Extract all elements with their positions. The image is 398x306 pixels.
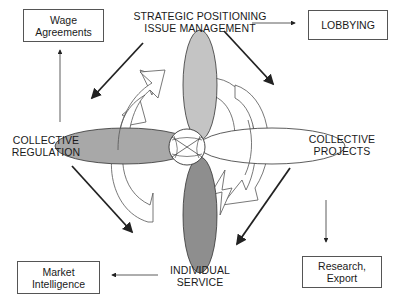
top-label-line2: ISSUE MANAGEMENT [115, 22, 285, 34]
wage-agreements-box: Wage Agreements [23, 9, 104, 42]
lobbying-label: LOBBYING [321, 19, 375, 31]
arrow-right-to-bottom [237, 168, 290, 244]
research-line1: Research, [318, 260, 366, 272]
petal-bottom [183, 157, 217, 273]
right-label-line1: COLLECTIVE [306, 133, 378, 145]
left-label-line2: REGULATION [10, 146, 82, 158]
right-label-line2: PROJECTS [306, 145, 378, 157]
right-label: COLLECTIVE PROJECTS [306, 133, 378, 157]
bottom-label-line1: INDIVIDUAL [160, 264, 240, 276]
left-label-line1: COLLECTIVE [10, 134, 82, 146]
bottom-label: INDIVIDUAL SERVICE [160, 264, 240, 288]
research-line2: Export [327, 272, 357, 284]
top-label: STRATEGIC POSITIONING ISSUE MANAGEMENT [115, 10, 285, 34]
center-knot [169, 129, 205, 165]
market-line1: Market [42, 266, 74, 278]
wage-line2: Agreements [35, 26, 92, 38]
bottom-label-line2: SERVICE [160, 276, 240, 288]
research-export-box: Research, Export [302, 256, 382, 288]
wage-line1: Wage [50, 14, 77, 26]
petal-top [183, 30, 217, 140]
market-intelligence-box: Market Intelligence [17, 261, 100, 294]
arrow-top-to-right [224, 31, 273, 84]
top-label-line1: STRATEGIC POSITIONING [115, 10, 285, 22]
left-label: COLLECTIVE REGULATION [10, 134, 82, 158]
market-line2: Intelligence [32, 278, 85, 290]
arrow-top-to-left [92, 43, 143, 98]
lobbying-box: LOBBYING [308, 10, 388, 40]
